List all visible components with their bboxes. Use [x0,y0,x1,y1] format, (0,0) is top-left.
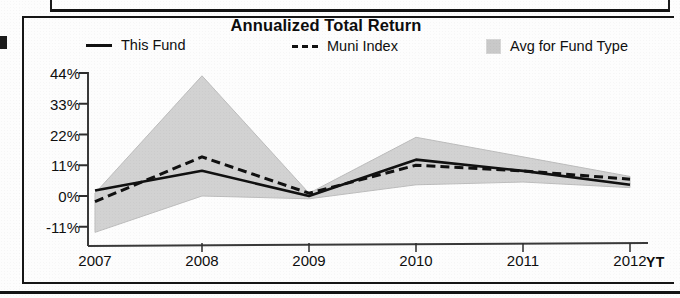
y-axis-tick-label: 22% [20,126,80,143]
x-axis-labels: 200720082009201020112012 [0,252,680,278]
legend-label-this-fund: This Fund [121,37,185,53]
scanned-page: Annualized Total Return This Fund Muni I… [0,0,680,298]
legend-item-muni-index: Muni Index [292,38,398,54]
solid-line-swatch-icon [86,44,112,47]
legend-label-avg-for-fund-type: Avg for Fund Type [510,38,628,54]
bottom-rule [0,291,680,294]
upper-box-bottom-edge [50,0,670,12]
x-axis-tick-label: 2011 [507,252,539,269]
x-axis-tick-label: 2010 [399,252,432,269]
page-title: Annualized Total Return [0,16,652,35]
x-axis-tick-label: 2008 [185,252,218,269]
chart-legend: This Fund Muni Index Avg for Fund Type [24,37,669,59]
x-axis-tick-label: 2007 [78,252,111,269]
dashed-line-swatch-icon [292,45,318,48]
legend-label-muni-index: Muni Index [327,38,398,54]
left-margin-mark [0,36,7,49]
x-axis-tick-label: 2012 [613,252,646,269]
x-axis-ytd-label: YT [646,254,665,270]
y-axis-tick-label: 0% [20,188,80,205]
y-axis-tick-label: 33% [20,95,80,112]
legend-item-this-fund: This Fund [86,37,185,53]
area-swatch-icon [486,39,501,54]
y-axis-tick-label: -11% [20,218,80,235]
y-axis-tick-label: 11% [20,157,80,174]
y-axis-tick-label: 44% [20,65,80,82]
legend-item-avg-for-fund-type: Avg for Fund Type [486,38,628,54]
x-axis-tick-label: 2009 [292,252,325,269]
